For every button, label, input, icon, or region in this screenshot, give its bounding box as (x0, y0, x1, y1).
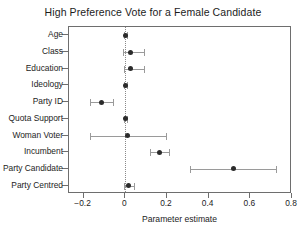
estimate-point-marker (125, 133, 130, 138)
confidence-interval-bar (124, 69, 144, 70)
page-title: High Preference Vote for a Female Candid… (0, 6, 306, 18)
estimate-point-marker (128, 66, 133, 71)
confidence-interval-cap (90, 133, 91, 140)
confidence-interval-cap (123, 49, 124, 56)
x-axis-tick-label: 0.4 (202, 199, 214, 207)
estimate-point-marker (123, 83, 128, 88)
plot-area (68, 26, 291, 193)
confidence-interval-cap (90, 99, 91, 106)
x-axis-title: Parameter estimate (68, 214, 291, 224)
confidence-interval-cap (113, 99, 114, 106)
x-axis-tick-label: 0.2 (160, 199, 172, 207)
confidence-interval-cap (150, 149, 151, 156)
y-axis-tick-label: Woman Voter (12, 130, 63, 138)
confidence-interval-cap (276, 166, 277, 173)
y-axis-tick-label: Incumbent (24, 147, 63, 155)
coefficient-plot-figure: High Preference Vote for a Female Candid… (0, 0, 306, 234)
x-axis-tick-label: 0.6 (243, 199, 255, 207)
confidence-interval-cap (144, 49, 145, 56)
confidence-interval-bar (123, 52, 144, 53)
y-axis-tick-label: Age (48, 30, 63, 38)
estimate-point-marker (99, 100, 104, 105)
confidence-interval-cap (124, 66, 125, 73)
estimate-point-marker (157, 150, 162, 155)
confidence-interval-cap (144, 66, 145, 73)
confidence-interval-cap (169, 149, 170, 156)
y-axis-tick-label: Party ID (33, 97, 63, 105)
estimate-point-marker (231, 166, 236, 171)
estimate-point-marker (128, 50, 133, 55)
x-axis-tick-label: 0 (122, 199, 127, 207)
y-axis-tick-label: Class (42, 47, 63, 55)
confidence-interval-cap (166, 133, 167, 140)
estimate-point-marker (126, 183, 131, 188)
y-axis-tick-label: Quota Support (9, 114, 63, 122)
x-axis-tick-label: −0.2 (74, 199, 91, 207)
y-axis-tick-label: Party Centred (11, 180, 63, 188)
y-axis-tick-label: Education (26, 64, 63, 72)
y-axis-tick-label: Ideology (31, 80, 63, 88)
y-axis-tick-label: Party Candidate (3, 164, 63, 172)
confidence-interval-cap (190, 166, 191, 173)
x-axis-tick-label: 0.8 (285, 199, 297, 207)
confidence-interval-cap (134, 183, 135, 190)
